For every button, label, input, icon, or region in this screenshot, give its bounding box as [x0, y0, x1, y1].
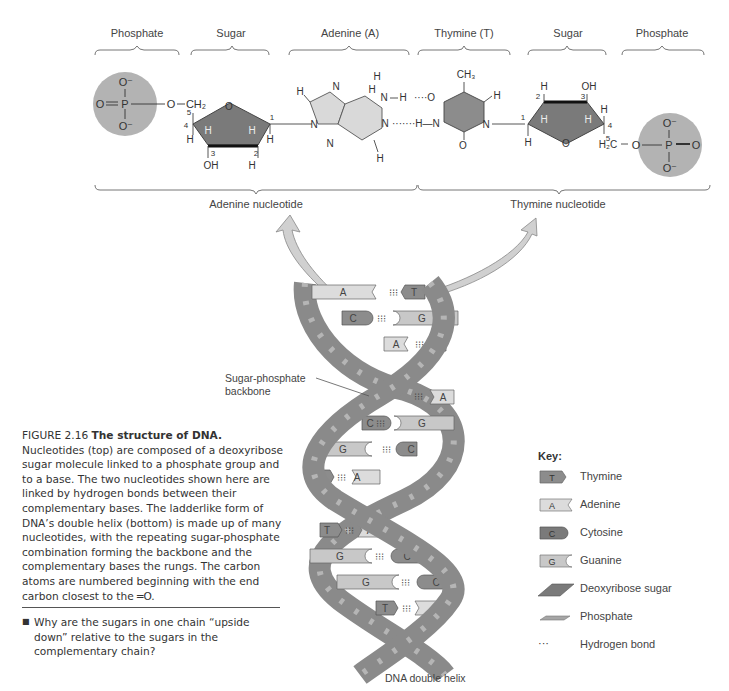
- svg-text:G: G: [418, 418, 426, 429]
- key-item-phosphate: Phosphate: [538, 608, 728, 628]
- key-item-guanine: G Guanine: [538, 552, 728, 572]
- guanine-icon: G: [538, 552, 574, 570]
- svg-text:⁝⁝⁝: ⁝⁝⁝: [389, 287, 398, 298]
- svg-text:T: T: [549, 473, 555, 483]
- svg-text:T: T: [382, 603, 388, 614]
- svg-text:⁝⁝⁝: ⁝⁝⁝: [375, 551, 384, 562]
- svg-text:⁝⁝⁝: ⁝⁝⁝: [377, 313, 386, 324]
- caption-divider: [22, 607, 280, 608]
- key-item-deoxyribose-sugar: Deoxyribose sugar: [538, 580, 728, 600]
- key-item-cytosine: C Cytosine: [538, 524, 728, 544]
- svg-text:A: A: [549, 501, 555, 511]
- svg-text:A: A: [340, 287, 347, 298]
- key-item-adenine: A Adenine: [538, 496, 728, 516]
- base-pair-1: A ⁝⁝⁝ T: [312, 285, 425, 299]
- base-pair-5: C ⁝⁝⁝ G: [362, 416, 454, 430]
- svg-text:G: G: [339, 444, 347, 455]
- svg-text:⁝⁝⁝: ⁝⁝⁝: [337, 472, 346, 483]
- svg-text:G: G: [418, 313, 426, 324]
- svg-text:A: A: [440, 392, 447, 403]
- svg-text:T: T: [324, 525, 330, 536]
- svg-text:G: G: [548, 557, 555, 567]
- svg-text:C: C: [549, 529, 556, 539]
- svg-text:⁝⁝⁝: ⁝⁝⁝: [401, 577, 410, 588]
- svg-text:⁝⁝⁝: ⁝⁝⁝: [345, 525, 354, 536]
- figure-body: Nucleotides (top) are composed of a deox…: [22, 444, 283, 602]
- question-text: Why are the sugars in one chain “upside …: [34, 615, 284, 659]
- figure-caption: FIGURE 2.16 The structure of DNA. Nucleo…: [22, 428, 284, 603]
- svg-text:⁝⁝⁝: ⁝⁝⁝: [414, 391, 423, 402]
- svg-text:C: C: [407, 444, 414, 455]
- svg-text:A: A: [354, 472, 361, 483]
- phosphate-icon: [538, 608, 574, 626]
- thymine-icon: T: [538, 468, 574, 486]
- svg-text:T: T: [411, 287, 417, 298]
- key-item-thymine: T Thymine: [538, 468, 728, 488]
- base-pair-4: ⁝⁝⁝ A: [414, 390, 455, 404]
- helix-caption: DNA double helix: [385, 672, 466, 684]
- svg-text:⁝⁝⁝: ⁝⁝⁝: [382, 444, 391, 455]
- svg-text:C: C: [366, 418, 373, 429]
- figure-title: The structure of DNA.: [92, 429, 222, 441]
- key-title: Key:: [538, 450, 562, 462]
- svg-text:G: G: [362, 577, 370, 588]
- adenine-icon: A: [538, 496, 574, 514]
- hydrogen-bond-icon: ···: [538, 637, 574, 655]
- review-question: ■ Why are the sugars in one chain “upsid…: [22, 615, 284, 659]
- svg-text:⁝⁝⁝: ⁝⁝⁝: [402, 603, 411, 614]
- bullet-icon: ■: [22, 615, 30, 630]
- cytosine-icon: C: [538, 524, 574, 542]
- figure-number: FIGURE 2.16: [22, 429, 88, 441]
- svg-text:A: A: [393, 339, 400, 350]
- deoxyribose-sugar-icon: [538, 580, 574, 598]
- svg-text:⁝⁝⁝: ⁝⁝⁝: [376, 418, 385, 429]
- svg-text:C: C: [349, 313, 356, 324]
- key-item-hydrogen-bond: ··· Hydrogen bond: [538, 636, 728, 656]
- sugar-phosphate-backbone-label: Sugar-phosphate backbone: [225, 372, 306, 398]
- svg-text:G: G: [336, 551, 344, 562]
